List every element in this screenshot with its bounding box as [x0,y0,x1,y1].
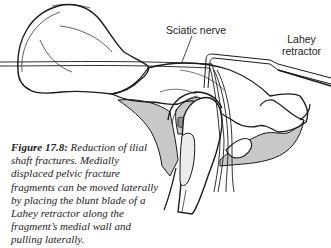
label-lahey-retractor: Lahey retractor [282,33,321,57]
figure: Sciatic nerve Lahey retractor Figure 17.… [0,0,331,248]
label-lahey-line2: retractor [282,45,321,57]
sciatic-leader-line [182,36,192,62]
label-lahey-line1: Lahey [282,33,321,45]
label-sciatic-nerve: Sciatic nerve [166,24,226,36]
ilium-wing [18,5,149,94]
shaded-region-right [220,120,304,166]
figure-caption: Figure 17.8: Reduction of ilial shaft fr… [11,141,161,247]
caption-text: Reduction of ilial shaft fractures. Medi… [11,141,158,245]
figure-number: Figure 17.8: [11,141,68,153]
